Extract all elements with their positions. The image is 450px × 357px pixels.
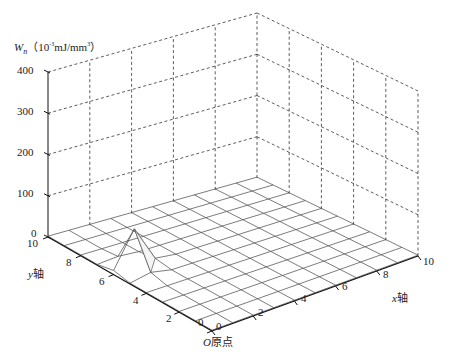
x-tick-4: 4 <box>301 293 307 304</box>
x-axis-text: 轴 <box>397 292 408 304</box>
y-tick-6: 6 <box>99 276 105 287</box>
y-tick-0: 0 <box>198 317 204 328</box>
x-tick-8: 8 <box>383 269 389 280</box>
origin-text: 原点 <box>211 336 233 348</box>
x-axis-label: x轴 <box>392 293 408 304</box>
z-unit-a: （10 <box>27 41 49 53</box>
x-tick-0: 0 <box>216 321 222 332</box>
y-axis-label: y轴 <box>28 269 44 280</box>
x-tick-10: 10 <box>423 256 434 267</box>
origin-var: O <box>203 336 211 348</box>
z-symbol: W <box>14 41 23 53</box>
y-tick-8: 8 <box>66 257 72 268</box>
origin-label: O原点 <box>203 337 233 348</box>
y-axis-text: 轴 <box>33 268 44 280</box>
z-tick-200: 200 <box>17 147 34 158</box>
y-tick-2: 2 <box>166 313 172 324</box>
z-tick-100: 100 <box>17 188 34 199</box>
z-tick-300: 300 <box>17 106 34 117</box>
surface-mesh <box>48 177 418 330</box>
x-tick-2: 2 <box>258 307 264 318</box>
x-tick-6: 6 <box>342 281 348 292</box>
back-wall-grid <box>48 13 418 256</box>
z-unit-b: mJ/mm <box>54 41 87 53</box>
z-unit-c: ） <box>90 41 101 53</box>
y-tick-10: 10 <box>27 238 38 249</box>
y-tick-4: 4 <box>133 295 139 306</box>
z-axis-label: Wn（10-3mJ/mm3） <box>14 41 101 56</box>
z-tick-400: 400 <box>17 65 34 76</box>
